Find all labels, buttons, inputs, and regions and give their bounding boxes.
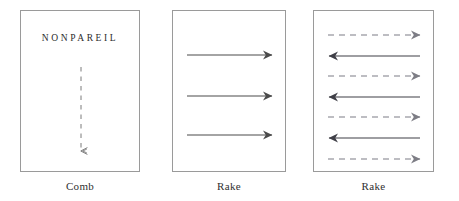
panel-comb: NONPAREIL [20, 10, 140, 172]
caption-comb: Comb [20, 180, 140, 192]
caption-rake-2: Rake [313, 180, 434, 192]
panel-rake-2-graphic [314, 11, 433, 171]
panel-rake-2 [313, 10, 434, 172]
caption-rake-1: Rake [172, 180, 286, 192]
figure-container: NONPAREIL [0, 0, 459, 201]
panel-rake-1 [172, 10, 286, 172]
panel-comb-heading: NONPAREIL [42, 33, 118, 43]
panel-comb-graphic: NONPAREIL [21, 11, 139, 171]
panel-rake-1-graphic [173, 11, 285, 171]
